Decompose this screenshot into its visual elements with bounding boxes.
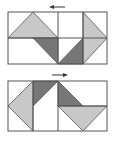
- dark-triangle: [33, 38, 58, 64]
- dark-triangle: [58, 81, 83, 106]
- light-triangle: [8, 12, 58, 38]
- light-triangle: [58, 106, 107, 131]
- dark-triangle: [33, 81, 58, 106]
- arrow-left-icon: [49, 5, 65, 9]
- arrow-right-icon: [52, 73, 68, 77]
- dark-triangle: [58, 38, 83, 64]
- light-triangle: [8, 81, 33, 131]
- top-panel: [8, 12, 107, 64]
- bottom-panel: [8, 81, 107, 131]
- quilt-block-diagram: [0, 0, 114, 146]
